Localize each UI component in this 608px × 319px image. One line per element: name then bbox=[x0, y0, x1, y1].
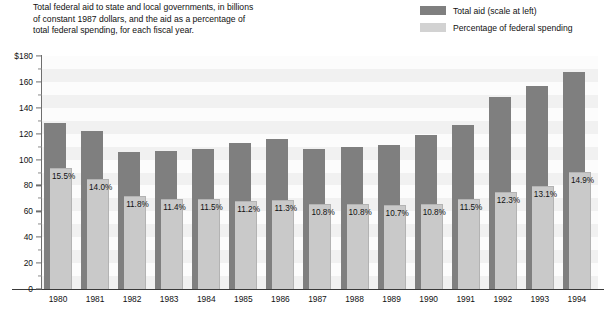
bar-percentage-label: 11.2% bbox=[237, 205, 260, 214]
x-axis-tick-label: 1983 bbox=[151, 294, 187, 304]
bar-percentage-label: 10.8% bbox=[311, 208, 334, 217]
legend-swatch-percentage bbox=[420, 23, 446, 32]
y-axis-tick-label: 0 bbox=[28, 284, 33, 294]
bar-group[interactable]: 11.5% bbox=[452, 56, 489, 289]
x-axis-tick-label: 1982 bbox=[114, 294, 150, 304]
bar-percentage[interactable]: 11.3% bbox=[272, 200, 294, 289]
y-axis-minor-tick bbox=[38, 198, 42, 199]
bar-percentage-label: 11.3% bbox=[274, 204, 297, 213]
y-axis-tick-label: 60 bbox=[24, 206, 33, 216]
y-axis-tick bbox=[36, 263, 42, 264]
chart-legend: Total aid (scale at left) Percentage of … bbox=[420, 2, 572, 36]
y-axis-minor-tick bbox=[38, 146, 42, 147]
x-axis-tick-label: 1984 bbox=[188, 294, 224, 304]
x-axis-tick-label: 1990 bbox=[411, 294, 447, 304]
legend-label-total-aid: Total aid (scale at left) bbox=[453, 6, 537, 16]
bar-percentage[interactable]: 10.7% bbox=[384, 205, 406, 289]
bar-group[interactable]: 12.3% bbox=[489, 56, 526, 289]
y-axis-tick bbox=[36, 55, 42, 56]
y-axis-tick bbox=[36, 159, 42, 160]
x-axis-tick-label: 1992 bbox=[485, 294, 521, 304]
bar-percentage-label: 11.5% bbox=[460, 203, 483, 212]
bar-group[interactable]: 14.0% bbox=[81, 56, 118, 289]
y-axis-minor-tick bbox=[38, 120, 42, 121]
y-axis-tick-label: 100 bbox=[19, 155, 33, 165]
legend-swatch-total-aid bbox=[420, 6, 446, 15]
y-axis-tick bbox=[36, 185, 42, 186]
bar-percentage[interactable]: 14.9% bbox=[569, 172, 591, 289]
legend-item-total-aid: Total aid (scale at left) bbox=[420, 2, 572, 19]
bar-percentage[interactable]: 11.5% bbox=[458, 199, 480, 289]
bar-percentage[interactable]: 10.8% bbox=[309, 204, 331, 289]
y-axis-minor-tick bbox=[38, 68, 42, 69]
x-axis-tick-label: 1989 bbox=[374, 294, 410, 304]
bar-percentage-label: 12.3% bbox=[497, 196, 520, 205]
x-axis-tick-label: 1981 bbox=[77, 294, 113, 304]
bar-group[interactable]: 13.1% bbox=[526, 56, 563, 289]
bar-percentage[interactable]: 11.2% bbox=[235, 201, 257, 289]
bar-group[interactable]: 11.4% bbox=[155, 56, 192, 289]
bar-group[interactable]: 10.7% bbox=[378, 56, 415, 289]
y-axis-tick bbox=[36, 237, 42, 238]
caption-line-1: Total federal aid to state and local gov… bbox=[33, 2, 333, 14]
chart-caption: Total federal aid to state and local gov… bbox=[33, 2, 333, 37]
caption-line-3: total federal spending, for each fiscal … bbox=[33, 25, 333, 37]
y-axis-tick-label: 20 bbox=[24, 258, 33, 268]
bar-percentage-label: 14.9% bbox=[571, 176, 594, 185]
y-axis-minor-tick bbox=[38, 224, 42, 225]
y-axis-tick bbox=[36, 288, 42, 289]
bar-percentage[interactable]: 11.4% bbox=[161, 199, 183, 289]
bar-group[interactable]: 14.9% bbox=[563, 56, 600, 289]
bar-percentage-label: 14.0% bbox=[89, 183, 112, 192]
bar-percentage[interactable]: 11.5% bbox=[198, 199, 220, 289]
y-axis-minor-tick bbox=[38, 250, 42, 251]
y-axis-tick-label: 80 bbox=[24, 180, 33, 190]
bar-group[interactable]: 10.8% bbox=[303, 56, 340, 289]
y-axis-tick-label: $180 bbox=[14, 51, 33, 61]
x-axis-tick-label: 1985 bbox=[225, 294, 261, 304]
x-axis-tick-label: 1994 bbox=[559, 294, 595, 304]
bar-percentage-label: 10.8% bbox=[423, 208, 446, 217]
y-axis-tick bbox=[36, 81, 42, 82]
bar-group[interactable]: 10.8% bbox=[415, 56, 452, 289]
y-axis-minor-tick bbox=[38, 276, 42, 277]
bar-percentage-label: 11.4% bbox=[163, 203, 186, 212]
bar-percentage[interactable]: 15.5% bbox=[50, 168, 72, 289]
bar-percentage[interactable]: 13.1% bbox=[532, 186, 554, 289]
bar-group[interactable]: 15.5% bbox=[44, 56, 81, 289]
y-axis-minor-tick bbox=[38, 172, 42, 173]
bar-percentage[interactable]: 11.8% bbox=[124, 196, 146, 289]
x-axis-baseline bbox=[12, 289, 604, 290]
bar-percentage-label: 10.7% bbox=[386, 209, 409, 218]
bar-percentage[interactable]: 12.3% bbox=[495, 192, 517, 289]
x-axis-tick-label: 1988 bbox=[337, 294, 373, 304]
y-axis-minor-tick bbox=[38, 94, 42, 95]
bar-group[interactable]: 11.8% bbox=[118, 56, 155, 289]
y-axis-tick bbox=[36, 211, 42, 212]
plot-area: 15.5%14.0%11.8%11.4%11.5%11.2%11.3%10.8%… bbox=[42, 56, 598, 289]
caption-line-2: of constant 1987 dollars, and the aid as… bbox=[33, 14, 333, 26]
bar-percentage-label: 11.8% bbox=[126, 200, 149, 209]
y-axis-tick bbox=[36, 107, 42, 108]
y-axis: $180160140120100806040200 bbox=[0, 0, 42, 319]
bar-percentage[interactable]: 10.8% bbox=[347, 204, 369, 289]
bar-percentage-label: 10.8% bbox=[349, 208, 372, 217]
y-axis-tick-label: 140 bbox=[19, 103, 33, 113]
bar-percentage[interactable]: 10.8% bbox=[421, 204, 443, 289]
x-axis-tick-label: 1993 bbox=[522, 294, 558, 304]
bar-percentage-label: 15.5% bbox=[52, 172, 75, 181]
x-axis-tick-label: 1986 bbox=[262, 294, 298, 304]
x-axis-tick-label: 1987 bbox=[299, 294, 335, 304]
legend-label-percentage: Percentage of federal spending bbox=[453, 23, 572, 33]
bar-group[interactable]: 11.2% bbox=[229, 56, 266, 289]
y-axis-tick-label: 120 bbox=[19, 129, 33, 139]
bar-group[interactable]: 11.5% bbox=[192, 56, 229, 289]
x-axis-tick-label: 1991 bbox=[448, 294, 484, 304]
bar-percentage-label: 11.5% bbox=[200, 203, 223, 212]
bar-group[interactable]: 11.3% bbox=[266, 56, 303, 289]
y-axis-tick-label: 40 bbox=[24, 232, 33, 242]
x-axis-tick-label: 1980 bbox=[40, 294, 76, 304]
bar-percentage[interactable]: 14.0% bbox=[87, 179, 109, 289]
bar-group[interactable]: 10.8% bbox=[341, 56, 378, 289]
legend-item-percentage: Percentage of federal spending bbox=[420, 19, 572, 36]
